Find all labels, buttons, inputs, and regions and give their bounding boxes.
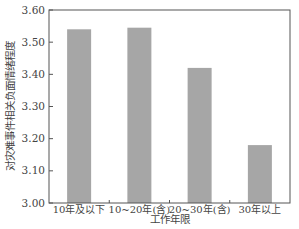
bar-chart: 3.003.103.203.303.403.503.60 10年及以下10~20… xyxy=(0,0,299,229)
y-axis: 3.003.103.203.303.403.503.60 xyxy=(22,4,53,209)
y-axis-title: 对灾难事件相关负面情绪程度 xyxy=(4,40,16,171)
y-tick-label: 3.50 xyxy=(22,36,45,48)
y-tick-label: 3.60 xyxy=(22,4,45,16)
x-tick-label: 30年以上 xyxy=(239,203,282,215)
bar xyxy=(248,145,272,203)
y-tick-label: 3.40 xyxy=(22,68,45,80)
bar xyxy=(188,68,212,203)
bar xyxy=(127,28,151,203)
bar xyxy=(67,29,91,203)
y-tick-label: 3.00 xyxy=(22,197,45,209)
x-axis-title: 工作年限 xyxy=(150,213,191,225)
y-tick-label: 3.20 xyxy=(22,132,45,144)
y-tick-label: 3.30 xyxy=(22,100,45,112)
bars xyxy=(67,28,272,203)
y-tick-label: 3.10 xyxy=(22,164,45,176)
x-tick-label: 10年及以下 xyxy=(53,203,106,215)
